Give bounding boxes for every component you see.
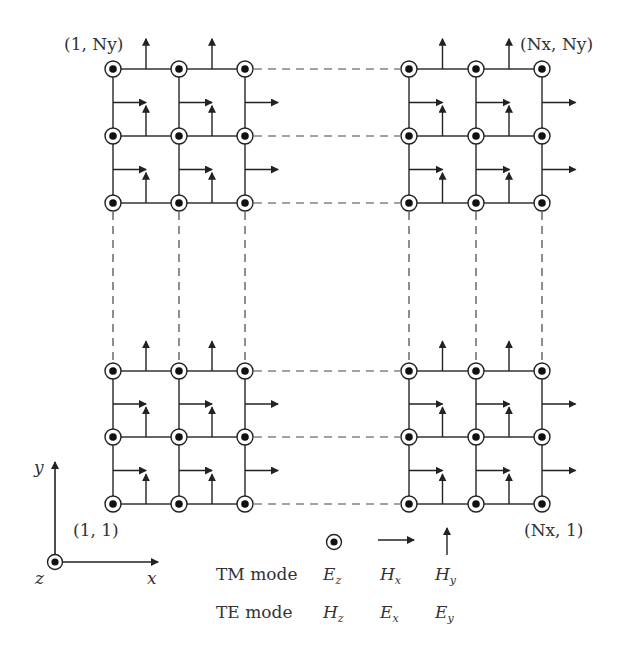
label-top-right: (Nx, Ny): [520, 34, 593, 54]
legend-table: TM mode TE mode Ez Hx Hy Hz Ex Ey: [216, 564, 457, 625]
legend-te-field-3: Ey: [434, 602, 454, 625]
legend-te-field-2: Ex: [379, 602, 399, 625]
axis-label-x: x: [147, 568, 157, 588]
axis-label-z: z: [34, 568, 45, 588]
grid-canvas: (1, Ny) (Nx, Ny) (1, 1) (Nx, 1) y x z TM…: [0, 0, 622, 659]
legend-te-field-1: Hz: [322, 602, 344, 625]
legend-row-tm-label: TM mode: [216, 564, 297, 584]
label-bottom-right: (Nx, 1): [524, 520, 583, 540]
yee-grid-diagram: (1, Ny) (Nx, Ny) (1, 1) (Nx, 1) y x z TM…: [0, 0, 622, 659]
ez-nodes: [105, 61, 550, 512]
legend-tm-field-2: Hx: [379, 564, 402, 587]
legend-tm-field-1: Ez: [322, 564, 341, 587]
label-top-left: (1, Ny): [64, 34, 123, 54]
legend-row-te-label: TE mode: [216, 602, 292, 622]
axis-label-y: y: [33, 457, 44, 477]
legend-symbols: [327, 528, 448, 555]
legend-tm-field-3: Hy: [434, 564, 457, 587]
label-bottom-left: (1, 1): [73, 520, 119, 540]
